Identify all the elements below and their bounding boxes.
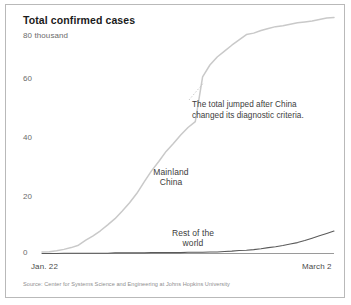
line-mainland-china xyxy=(42,18,334,253)
annotation-jump-note: The total jumped after China changed its… xyxy=(192,100,304,121)
plot-area xyxy=(0,0,351,305)
source-note: Source: Center for Systems Science and E… xyxy=(23,281,230,287)
series-label-mainland-china: Mainland China xyxy=(140,167,202,187)
chart-figure: Total confirmed cases 80 thousand 60 40 … xyxy=(0,0,351,305)
series-label-rest-of-world: Rest of the world xyxy=(160,228,226,248)
